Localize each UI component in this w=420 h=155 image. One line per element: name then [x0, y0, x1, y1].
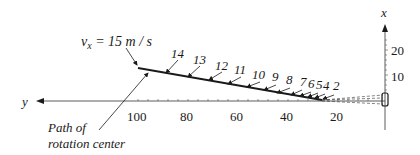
point-label-13: 13: [193, 52, 207, 67]
point-label-9: 9: [272, 69, 279, 84]
x-axis-label: x: [380, 5, 387, 20]
point-label-4: 4: [323, 78, 330, 93]
y-tick-60: 60: [230, 109, 243, 124]
velocity-arrow: [126, 48, 137, 65]
point-label-2: 2: [333, 78, 340, 93]
x-axis-arrow-icon: [382, 24, 388, 32]
point-label-5: 5: [316, 77, 323, 92]
vehicle: [322, 93, 388, 106]
rotation-center-path: [138, 68, 322, 100]
point-label-7: 7: [300, 74, 307, 89]
path-label-line2: rotation center: [48, 136, 126, 151]
x-axis: [382, 24, 388, 130]
path-label-line1: Path of: [47, 120, 88, 135]
velocity-label: vx = 15 m / s: [81, 34, 153, 51]
point-label-12: 12: [215, 58, 229, 73]
y-tick-20: 20: [330, 109, 343, 124]
y-axis-label: y: [20, 94, 28, 109]
point-label-10: 10: [252, 67, 266, 82]
point-label-14: 14: [171, 46, 185, 61]
y-tick-40: 40: [280, 109, 293, 124]
point-label-6: 6: [308, 76, 315, 91]
y-tick-80: 80: [180, 109, 193, 124]
point-label-11: 11: [234, 62, 246, 77]
y-tick-100: 100: [127, 109, 147, 124]
x-tick-10: 10: [391, 69, 404, 84]
x-tick-20: 20: [391, 43, 404, 58]
point-label-8: 8: [286, 72, 293, 87]
diagram-canvas: y 100 80 60 40 20 x 20 10 vx = 15 m / s …: [0, 0, 420, 155]
y-axis-arrow-icon: [36, 98, 44, 104]
